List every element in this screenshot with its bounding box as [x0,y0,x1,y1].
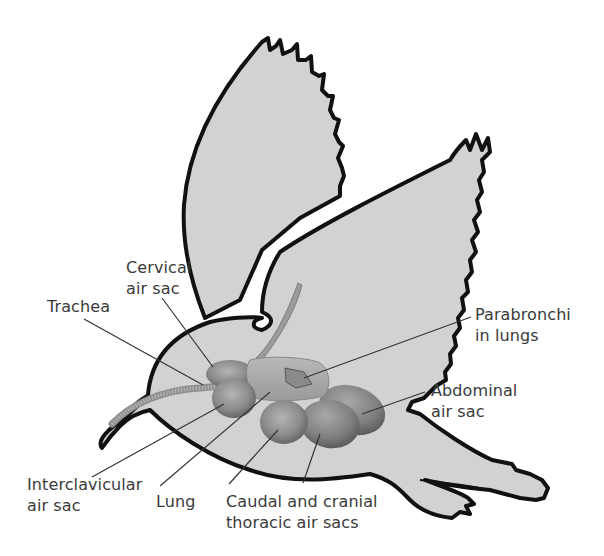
label-interclavicular-air-sac: Interclavicular air sac [27,474,142,516]
bird-respiratory-diagram [0,0,604,556]
label-abdominal-air-sac: Abdominal air sac [431,380,517,422]
label-trachea: Trachea [47,296,110,317]
label-thoracic-air-sacs: Caudal and cranial thoracic air sacs [226,491,378,533]
interclavicular-air-sac [212,378,256,418]
label-lung: Lung [156,491,195,512]
label-parabronchi: Parabronchi in lungs [475,304,571,346]
label-cervical-air-sac: Cervical air sac [126,257,191,299]
thoracic-air-sac-cranial [260,400,308,444]
